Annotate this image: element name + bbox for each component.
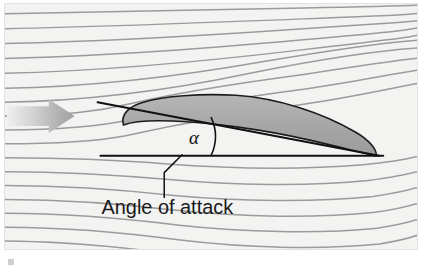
caption-strip [4, 256, 418, 269]
flow-field-svg: α Angle of attack [5, 4, 417, 249]
flow-diagram-frame: α Angle of attack [4, 3, 418, 250]
caption-bullet-icon [8, 259, 14, 265]
angle-of-attack-label: Angle of attack [102, 196, 234, 218]
alpha-symbol: α [189, 127, 200, 148]
figure-root: α Angle of attack [0, 0, 427, 271]
